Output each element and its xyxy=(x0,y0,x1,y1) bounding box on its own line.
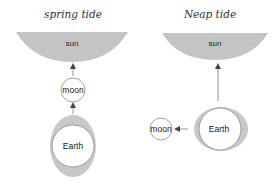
neap-tide-panel: Neap tide sun Earth moon xyxy=(150,8,268,151)
neap-tide-title: Neap tide xyxy=(183,8,236,20)
moon-label: moon xyxy=(62,85,84,95)
spring-tide-title: spring tide xyxy=(44,8,102,20)
earth-label: Earth xyxy=(209,124,230,134)
moon-label: moon xyxy=(150,124,172,134)
sun-label: sun xyxy=(209,39,222,48)
spring-tide-panel: spring tide sun moon Earth xyxy=(16,8,128,177)
tide-diagram: spring tide sun moon Earth Neap tide sun… xyxy=(0,0,278,189)
sun-label: sun xyxy=(66,39,79,48)
earth-label: Earth xyxy=(63,141,84,151)
